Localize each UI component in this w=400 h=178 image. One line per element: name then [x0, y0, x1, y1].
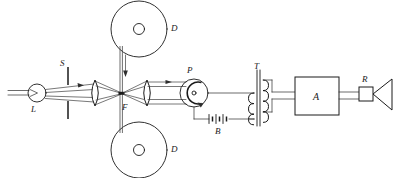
film-reel-bottom [111, 122, 167, 178]
focus-label: F [121, 102, 128, 112]
film-strip [120, 46, 122, 133]
circuit-wire-output [339, 92, 359, 99]
reel-top-label: D [170, 23, 178, 33]
battery-label: B [215, 126, 221, 136]
light-rays-left [46, 84, 95, 102]
transformer [249, 70, 296, 126]
exciter-lamp [8, 84, 46, 102]
photocell [180, 79, 208, 108]
amplifier-label: A [312, 91, 320, 102]
photocell-label: P [186, 65, 193, 75]
loudspeaker-horn [373, 79, 392, 110]
slit-label: S [60, 58, 65, 68]
lamp-label: L [30, 104, 36, 114]
ray-arrow-2-icon [166, 80, 173, 84]
reel-bottom-label: D [170, 144, 178, 154]
light-rays-converging [96, 82, 121, 105]
resistor-label: R [361, 74, 368, 84]
transformer-label: T [254, 61, 260, 71]
diagram-canvas: D D L S [0, 0, 400, 178]
circuit-wire-bottom [194, 107, 254, 119]
film-reel-top [111, 1, 167, 57]
schematic-diagram: D D L S [0, 0, 400, 178]
film-travel-arrow-icon [123, 55, 128, 77]
battery [209, 115, 227, 124]
objective-lens [144, 80, 151, 106]
resistor [359, 87, 373, 101]
ray-arrow-1-icon [78, 83, 85, 87]
